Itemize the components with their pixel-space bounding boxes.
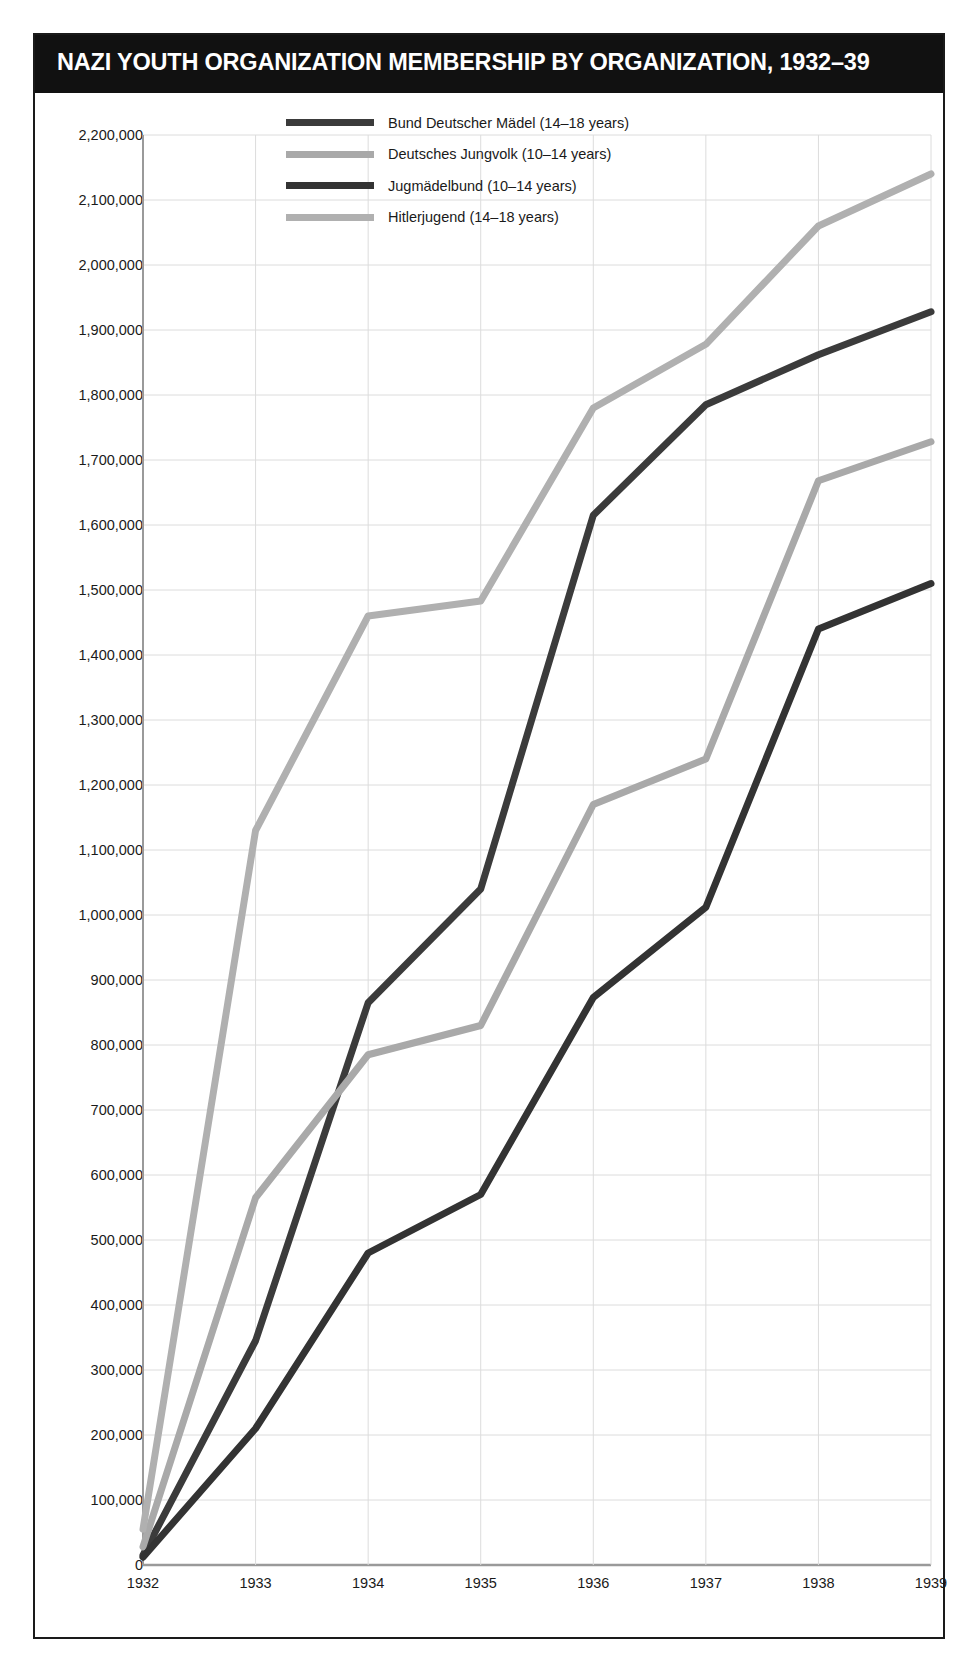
plot-area: 2,200,0002,100,0002,000,0001,900,0001,80…	[35, 93, 943, 1637]
legend-item-label: Jugmädelbund (10–14 years)	[388, 178, 577, 194]
legend-item-label: Hitlerjugend (14–18 years)	[388, 209, 559, 225]
x-axis-tick-label: 1934	[352, 1575, 384, 1591]
page-title: NAZI YOUTH ORGANIZATION MEMBERSHIP BY OR…	[57, 49, 870, 76]
chart-figure: NAZI YOUTH ORGANIZATION MEMBERSHIP BY OR…	[33, 33, 945, 1639]
x-axis-tick-label: 1936	[577, 1575, 609, 1591]
x-axis-tick-label: 1935	[465, 1575, 497, 1591]
legend-item: Jugmädelbund (10–14 years)	[286, 170, 676, 202]
legend-item: Deutsches Jungvolk (10–14 years)	[286, 139, 676, 171]
x-axis-tick-label: 1932	[127, 1575, 159, 1591]
chart-series-lines	[35, 93, 947, 1637]
legend-color-swatch	[286, 214, 374, 221]
legend-item: Bund Deutscher Mädel (14–18 years)	[286, 107, 676, 139]
chart-legend: Bund Deutscher Mädel (14–18 years)Deutsc…	[286, 107, 676, 233]
x-axis-tick-label: 1933	[239, 1575, 271, 1591]
legend-color-swatch	[286, 151, 374, 158]
x-axis-tick-label: 1938	[802, 1575, 834, 1591]
legend-color-swatch	[286, 182, 374, 189]
series-line-2	[143, 584, 931, 1558]
legend-item-label: Deutsches Jungvolk (10–14 years)	[388, 146, 611, 162]
legend-item: Hitlerjugend (14–18 years)	[286, 202, 676, 234]
series-line-1	[143, 442, 931, 1547]
legend-item-label: Bund Deutscher Mädel (14–18 years)	[388, 115, 629, 131]
x-axis-tick-label: 1937	[690, 1575, 722, 1591]
x-axis-tick-label: 1939	[915, 1575, 947, 1591]
legend-color-swatch	[286, 119, 374, 126]
chart-title-bar: NAZI YOUTH ORGANIZATION MEMBERSHIP BY OR…	[35, 35, 943, 93]
